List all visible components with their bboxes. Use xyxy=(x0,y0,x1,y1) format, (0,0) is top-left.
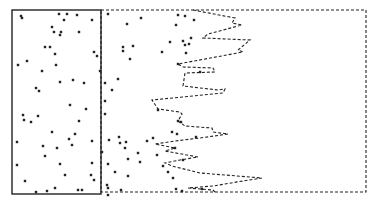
data-point xyxy=(175,188,177,190)
data-point xyxy=(167,171,169,173)
data-point xyxy=(146,140,148,142)
data-point xyxy=(51,131,53,133)
data-point xyxy=(122,50,124,52)
data-point xyxy=(101,151,103,153)
data-point xyxy=(120,189,122,191)
data-point xyxy=(190,37,192,39)
data-point xyxy=(74,133,76,135)
data-point xyxy=(44,155,46,157)
data-point xyxy=(54,187,56,189)
data-point xyxy=(26,60,28,62)
data-point xyxy=(104,100,106,102)
data-point xyxy=(69,104,71,106)
data-point xyxy=(30,121,32,123)
data-point xyxy=(59,163,61,165)
data-point xyxy=(35,191,37,193)
data-point xyxy=(125,141,127,143)
data-point xyxy=(180,121,182,123)
data-point xyxy=(195,136,197,138)
data-point xyxy=(35,87,37,89)
data-point xyxy=(108,139,110,141)
data-point xyxy=(177,120,179,122)
data-point xyxy=(111,89,113,91)
data-point xyxy=(124,147,126,149)
data-point xyxy=(49,46,51,48)
diagram-figure xyxy=(0,0,376,202)
data-point xyxy=(16,164,18,166)
data-point xyxy=(107,194,109,196)
data-point xyxy=(17,64,19,66)
data-point xyxy=(71,144,73,146)
data-point xyxy=(176,133,178,135)
data-point xyxy=(38,90,40,92)
data-point xyxy=(199,71,201,73)
data-point xyxy=(46,190,48,192)
data-point xyxy=(54,53,56,55)
data-point xyxy=(23,119,25,121)
data-point xyxy=(162,165,164,167)
data-point xyxy=(156,154,158,156)
data-point xyxy=(91,140,93,142)
data-point xyxy=(177,63,179,65)
data-point xyxy=(161,51,163,53)
data-point xyxy=(182,159,184,161)
data-point xyxy=(185,52,187,54)
data-point xyxy=(93,179,95,181)
data-point xyxy=(117,78,119,80)
data-point xyxy=(91,162,93,164)
data-point xyxy=(77,189,79,191)
data-point xyxy=(152,137,154,139)
data-point xyxy=(60,31,62,33)
data-point xyxy=(107,187,109,189)
data-point xyxy=(114,171,116,173)
background xyxy=(0,0,376,202)
data-point xyxy=(175,24,177,26)
data-point xyxy=(140,17,142,19)
data-point xyxy=(76,14,78,16)
data-point xyxy=(96,55,98,57)
data-point xyxy=(184,15,186,17)
data-point xyxy=(56,147,58,149)
data-point xyxy=(16,141,18,143)
data-point xyxy=(90,174,92,176)
data-point xyxy=(132,45,134,47)
data-point xyxy=(63,19,65,21)
data-point xyxy=(139,161,141,163)
data-point xyxy=(137,152,139,154)
data-point xyxy=(41,70,43,72)
data-point xyxy=(59,34,61,36)
data-point xyxy=(188,43,190,45)
data-point xyxy=(157,109,159,111)
data-point xyxy=(55,64,57,66)
data-point xyxy=(68,138,70,140)
data-point xyxy=(37,115,39,117)
data-point xyxy=(127,175,129,177)
diagram-canvas xyxy=(0,0,376,202)
data-point xyxy=(21,17,23,19)
data-point xyxy=(193,19,195,21)
data-point xyxy=(66,13,68,15)
data-point xyxy=(64,174,66,176)
data-point xyxy=(85,108,87,110)
data-point xyxy=(99,70,101,72)
data-point xyxy=(172,177,174,179)
data-point xyxy=(127,158,129,160)
data-point xyxy=(169,41,171,43)
data-point xyxy=(58,13,60,15)
data-point xyxy=(122,46,124,48)
data-point xyxy=(106,184,108,186)
data-point xyxy=(107,13,109,15)
data-point xyxy=(119,142,121,144)
data-point xyxy=(118,136,120,138)
data-point xyxy=(107,163,109,165)
data-point xyxy=(182,40,184,42)
data-point xyxy=(24,180,26,182)
data-point xyxy=(91,19,93,21)
data-point xyxy=(72,79,74,81)
data-point xyxy=(184,44,186,46)
data-point xyxy=(174,147,176,149)
data-point xyxy=(177,14,179,16)
data-point xyxy=(78,31,80,33)
data-point xyxy=(104,82,106,84)
data-point xyxy=(51,26,53,28)
